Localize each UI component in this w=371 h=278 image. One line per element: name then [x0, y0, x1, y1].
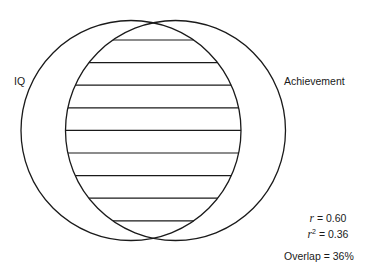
achievement-label: Achievement [284, 75, 345, 87]
r2-exponent: 2 [312, 228, 316, 235]
r-symbol: r [310, 212, 314, 224]
iq-label: IQ [14, 75, 25, 87]
correlation-stats: r = 0.60 r2 = 0.36 [300, 211, 356, 241]
r2-value: = 0.36 [319, 228, 349, 240]
overlap-hatch [21, 40, 241, 221]
r2-value-line: r2 = 0.36 [300, 225, 356, 241]
r-value: = 0.60 [317, 212, 347, 224]
overlap-label: Overlap = 36% [284, 250, 354, 262]
r-value-line: r = 0.60 [300, 211, 356, 225]
